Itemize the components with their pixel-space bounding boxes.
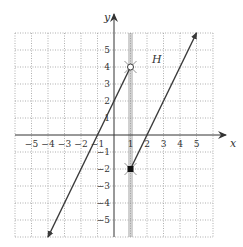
y-tick-label: 5	[104, 45, 110, 55]
x-tick-label: −5	[25, 139, 39, 149]
x-tick-label: 5	[194, 139, 200, 149]
annotation-h-label: H	[151, 53, 162, 66]
axes	[15, 14, 226, 237]
closed-square-endpoint	[128, 166, 134, 172]
y-tick-label: −5	[97, 215, 111, 225]
x-tick-label: −4	[41, 139, 55, 149]
y-tick-label: −1	[97, 147, 110, 157]
x-tick-label: −2	[74, 139, 87, 149]
y-axis-label: y	[103, 11, 111, 24]
x-axis-label: x	[230, 137, 237, 150]
x-tick-label: 1	[128, 139, 134, 149]
x-tick-label: 3	[161, 139, 167, 149]
y-tick-label: 3	[104, 79, 110, 89]
open-circle-endpoint	[128, 64, 134, 70]
y-tick-label: −4	[97, 198, 111, 208]
y-tick-label: 4	[104, 62, 110, 72]
y-tick-label: −3	[97, 181, 111, 191]
x-tick-label: −3	[58, 139, 72, 149]
y-tick-label: −2	[97, 164, 110, 174]
y-tick-label: 2	[104, 96, 110, 106]
x-tick-label: 4	[177, 139, 183, 149]
piecewise-function-graph: −5−4−3−2−112345−5−4−3−2−112345 x y H	[0, 0, 243, 247]
